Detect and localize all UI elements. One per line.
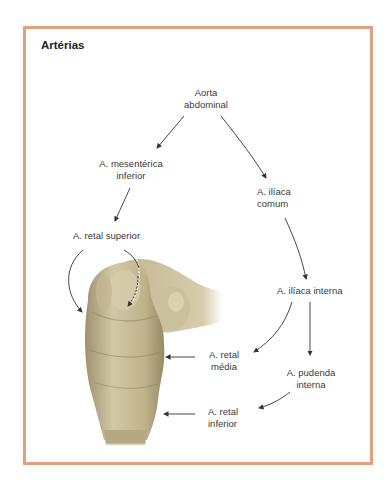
node-mesenterica-line1: A. mesentérica [93,158,169,170]
node-aorta-line1: Aorta [180,87,232,99]
node-retal-media: A. retal média [204,349,244,373]
node-pudenda-interna-line2: interna [283,379,339,391]
node-retal-media-line2: média [204,361,244,373]
node-iliaca-comum-line1: A. ilíaca [257,186,291,198]
node-iliaca-interna-line1: A. ilíaca interna [277,285,342,297]
node-mesenterica-inferior: A. mesentérica inferior [93,158,169,182]
node-pudenda-interna: A. pudenda interna [283,367,339,391]
diagram-graphics [0,0,389,484]
node-iliaca-comum: A. ilíaca comum [257,186,291,210]
node-retal-superior: A. retal superior [73,230,140,242]
node-iliaca-interna: A. ilíaca interna [277,285,342,297]
node-iliaca-comum-line2: comum [257,198,291,210]
node-retal-inferior-line1: A. retal [208,406,238,418]
node-mesenterica-line2: inferior [93,170,169,182]
node-pudenda-interna-line1: A. pudenda [283,367,339,379]
node-retal-inferior: A. retal inferior [208,406,238,430]
node-retal-media-line1: A. retal [204,349,244,361]
rectum-illustration [85,256,222,446]
node-aorta-abdominal: Aorta abdominal [180,87,232,111]
node-retal-inferior-line2: inferior [208,418,238,430]
node-retal-superior-line1: A. retal superior [73,230,140,242]
node-aorta-line2: abdominal [180,99,232,111]
